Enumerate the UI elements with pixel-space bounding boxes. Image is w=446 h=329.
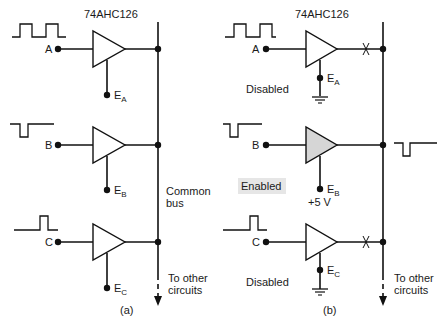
ground-icon xyxy=(312,289,328,295)
enable-label-c: EC xyxy=(327,264,340,279)
bus-output-waveform xyxy=(394,143,437,156)
arrow-down-icon xyxy=(154,296,162,306)
positive-pulse-waveform xyxy=(223,216,267,230)
to-other-circuits-label: To other xyxy=(394,272,434,284)
negative-pulse-waveform xyxy=(223,124,262,137)
buffer-triangle-icon xyxy=(93,31,125,67)
enable-terminal-c xyxy=(317,267,323,273)
panel-b: 74AHC126 A EA Disabled xyxy=(223,8,437,316)
panel-a: 74AHC126 A EA B xyxy=(10,8,211,316)
input-label-a: A xyxy=(45,43,53,55)
buffer-b-enabled: B EB +5 V Enabled xyxy=(223,124,437,208)
enable-terminal-c xyxy=(104,285,110,291)
pulse-train-waveform xyxy=(12,24,66,37)
chip-label-b: 74AHC126 xyxy=(295,8,349,20)
bus-junction xyxy=(380,46,386,52)
buffer-a-disabled: A EA Disabled xyxy=(225,24,386,103)
caption-b: (b) xyxy=(323,304,336,316)
bus-junction xyxy=(155,239,161,245)
common-bus-label-2: bus xyxy=(166,197,184,209)
enable-terminal-a xyxy=(317,75,323,81)
common-bus-label: Common xyxy=(166,185,211,197)
bus-junction xyxy=(380,142,386,148)
bus-junction xyxy=(380,239,386,245)
pulse-train-waveform xyxy=(225,24,276,37)
caption-a: (a) xyxy=(120,304,133,316)
buffer-a: A EA xyxy=(12,24,161,104)
input-label-c: C xyxy=(45,236,53,248)
buffer-triangle-icon xyxy=(93,224,125,260)
buffer-c: C EC xyxy=(14,216,161,297)
buffer-triangle-icon xyxy=(93,127,125,163)
enable-label-a: EA xyxy=(114,89,127,104)
enable-label-c: EC xyxy=(114,282,127,297)
negative-pulse-waveform xyxy=(10,124,54,137)
input-label-b: B xyxy=(252,139,259,151)
buffer-b: B EB xyxy=(10,124,161,199)
input-label-c: C xyxy=(252,236,260,248)
chip-label-a: 74AHC126 xyxy=(84,8,138,20)
to-other-circuits-label-2: circuits xyxy=(394,284,429,296)
enable-label-a: EA xyxy=(327,72,340,87)
buffer-triangle-icon xyxy=(306,224,337,260)
state-label-disabled-c: Disabled xyxy=(246,276,289,288)
enable-terminal-b xyxy=(317,186,323,192)
buffer-triangle-icon xyxy=(306,31,337,67)
state-label-disabled-a: Disabled xyxy=(246,83,289,95)
bus-junction xyxy=(155,142,161,148)
to-other-circuits-label: To other xyxy=(168,272,208,284)
buffer-c-disabled: C EC Disabled xyxy=(223,216,386,295)
positive-pulse-waveform xyxy=(14,216,58,230)
bus-junction xyxy=(155,46,161,52)
arrow-down-icon xyxy=(379,296,387,306)
enable-terminal-a xyxy=(104,92,110,98)
enable-label-b: EB xyxy=(114,184,127,199)
state-label-enabled-b: Enabled xyxy=(241,180,281,192)
ground-icon xyxy=(312,97,328,103)
input-label-b: B xyxy=(45,139,52,151)
buffer-triangle-enabled-icon xyxy=(306,127,337,163)
supply-label-5v: +5 V xyxy=(308,196,332,208)
input-label-a: A xyxy=(252,43,260,55)
to-other-circuits-label-2: circuits xyxy=(168,284,203,296)
enable-terminal-b xyxy=(104,187,110,193)
